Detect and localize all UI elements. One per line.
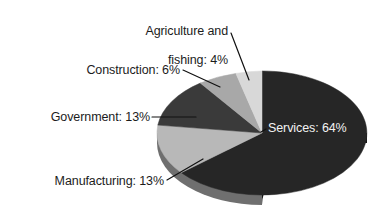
slice-label-government: Government: 13%	[14, 110, 150, 125]
slice-label-construction: Construction: 6%	[58, 63, 180, 78]
slice-label-services: Services: 64%	[268, 121, 347, 135]
slice-label-manufacturing: Manufacturing: 13%	[10, 174, 164, 189]
slice-label-agriculture-line1: Agriculture and	[145, 24, 228, 38]
pie-chart-figure: Agriculture and fishing: 4% Construction…	[0, 0, 384, 213]
